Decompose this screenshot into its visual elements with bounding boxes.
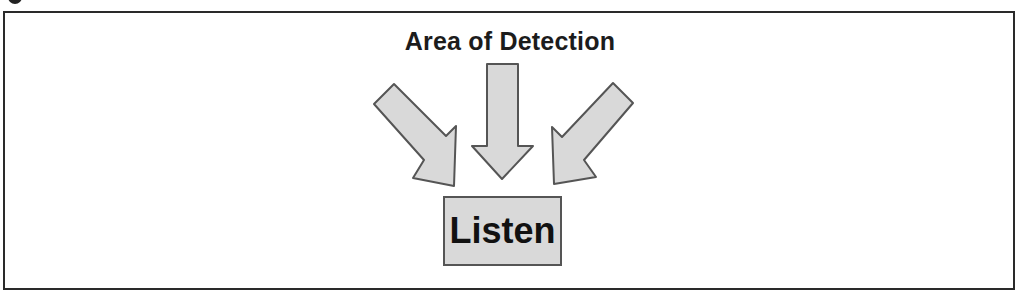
listen-label: Listen — [449, 210, 555, 252]
arrow-down-left-icon — [552, 83, 633, 184]
arrow-down-icon — [472, 64, 533, 179]
arrow-down-right-icon — [374, 84, 456, 186]
listen-box: Listen — [443, 196, 562, 266]
